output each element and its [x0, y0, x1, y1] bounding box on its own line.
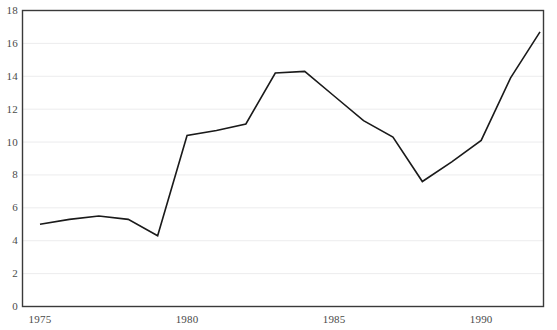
chart-canvas [0, 0, 557, 330]
x-axis-tick-label: 1985 [314, 314, 354, 325]
line-chart: 024681012141618 1975198019851990 [0, 0, 557, 330]
y-axis-tick-label: 18 [2, 5, 18, 16]
y-axis-tick-label: 2 [2, 268, 18, 279]
y-axis-tick-label: 4 [2, 235, 18, 246]
y-axis-tick-label: 8 [2, 169, 18, 180]
chart-background [0, 0, 557, 330]
y-axis-tick-label: 12 [2, 104, 18, 115]
y-axis-tick-label: 14 [2, 71, 18, 82]
y-axis-tick-label: 16 [2, 38, 18, 49]
x-axis-tick-label: 1975 [20, 314, 60, 325]
x-axis-tick-label: 1990 [461, 314, 501, 325]
y-axis-tick-label: 0 [2, 301, 18, 312]
y-axis-tick-label: 10 [2, 137, 18, 148]
x-axis-tick-label: 1980 [167, 314, 207, 325]
y-axis-tick-label: 6 [2, 202, 18, 213]
